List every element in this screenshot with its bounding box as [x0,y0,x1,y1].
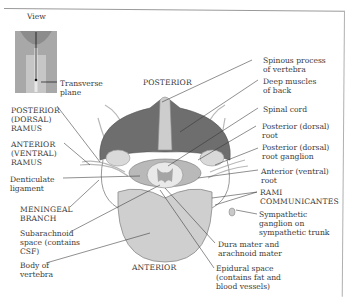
label-denticulate-ligament: Denticulate ligament [10,175,55,193]
label-posterior-ramus: POSTERIOR (DORSAL) RAMUS [11,106,60,133]
label-posterior-root: Posterior (dorsal) root [262,122,329,140]
label-dura-arachnoid: Dura mater and arachnoid mater [218,240,282,258]
label-anterior-ramus: ANTERIOR (VENTRAL) RAMUS [11,140,57,167]
view-label: View [27,12,46,21]
label-spinous-process: Spinous process of vertebra [263,56,326,74]
inset-neck-image [15,31,57,93]
label-subarachnoid-space: Subarachnoid space (contains CSF) [20,229,80,256]
label-deep-muscles: Deep muscles of back [263,77,316,95]
anterior-orientation-label: ANTERIOR [132,263,176,272]
transverse-plane-label: Transverse plane [60,79,103,97]
label-rami-communicantes: RAMI COMMUNICANTES [260,188,339,206]
label-anterior-root: Anterior (ventral) root [261,167,329,185]
spinous-process-shape [158,97,172,150]
label-sympathetic-ganglion: Sympathetic ganglion on sympathetic trun… [259,210,329,237]
posterior-orientation-label: POSTERIOR [143,78,192,87]
vertebral-body [118,189,212,262]
label-posterior-root-ganglion: Posterior (dorsal) root ganglion [262,143,329,161]
label-epidural-space: Epidural space (contains fat and blood v… [216,264,281,291]
label-meningeal-branch: MENINGEAL BRANCH [20,205,73,223]
label-body-of-vertebra: Body of vertebra [20,261,53,279]
label-spinal-cord: Spinal cord [263,105,307,114]
sympathetic-ganglion-shape [229,208,235,216]
